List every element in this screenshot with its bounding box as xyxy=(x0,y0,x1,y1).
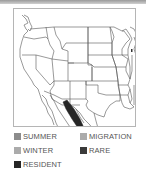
legend-label: RESIDENT xyxy=(23,160,62,169)
resident-swatch-icon xyxy=(14,161,21,168)
legend-item-summer: SUMMER xyxy=(14,132,57,141)
legend-label: MIGRATION xyxy=(89,132,132,141)
winter-swatch-icon xyxy=(14,147,21,154)
summer-swatch-icon xyxy=(14,133,21,140)
top-band xyxy=(0,0,146,4)
legend-item-resident: RESIDENT xyxy=(14,160,62,169)
legend-item-rare: RARE xyxy=(80,146,110,155)
legend-item-winter: WINTER xyxy=(14,146,53,155)
legend-label: SUMMER xyxy=(23,132,57,141)
migration-swatch-icon xyxy=(80,133,87,140)
resident-range xyxy=(63,100,84,127)
range-map xyxy=(13,8,136,127)
legend-label: WINTER xyxy=(23,146,53,155)
rare-swatch-icon xyxy=(80,147,87,154)
legend-label: RARE xyxy=(89,146,110,155)
legend-item-migration: MIGRATION xyxy=(80,132,132,141)
map-legend: SUMMER MIGRATION WINTER RARE RESIDENT xyxy=(14,132,146,172)
state-borders-map xyxy=(14,9,136,127)
